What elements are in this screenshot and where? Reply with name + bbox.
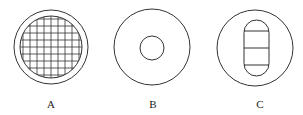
figure-c-label: C	[256, 98, 263, 110]
figure-b-outer-circle	[114, 9, 190, 85]
figure-b: B	[114, 9, 190, 110]
figure-a-grid	[0, 0, 110, 100]
figure-b-label: B	[149, 98, 156, 110]
figure-b-inner-circle	[140, 36, 164, 60]
figure-a: A	[0, 0, 110, 110]
diagram-canvas: A B C	[0, 0, 303, 115]
figure-a-label: A	[47, 98, 55, 110]
figure-c: C	[217, 10, 293, 110]
